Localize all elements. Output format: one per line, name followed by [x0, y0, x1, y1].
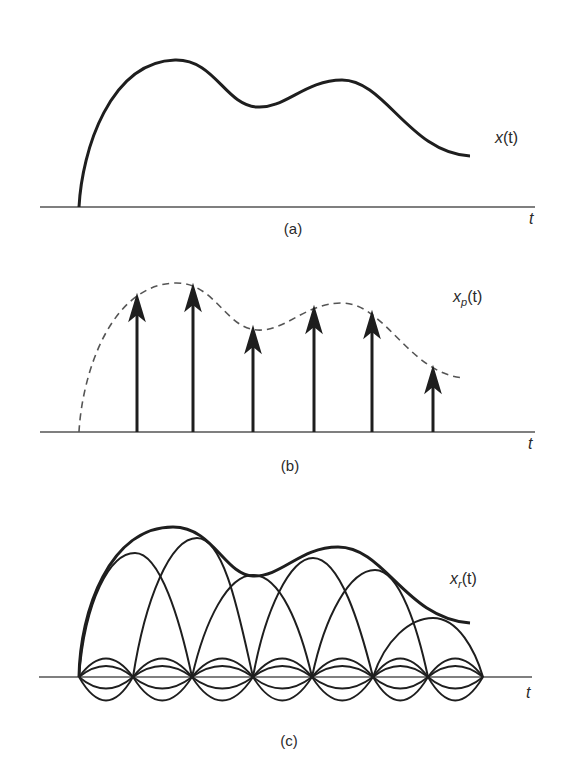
axis-label-t-a: t	[529, 210, 534, 227]
caption-b: (b)	[281, 457, 299, 474]
panel-a: x(t) t (a)	[40, 60, 535, 237]
sinc-main-lobes	[79, 538, 483, 677]
impulse-4	[308, 310, 320, 432]
signal-label-a: x(t)	[494, 129, 518, 146]
caption-a: (a)	[284, 220, 302, 237]
signal-label-b: xp(t)	[452, 288, 482, 308]
panel-c: xr(t) t (c)	[39, 527, 532, 749]
signal-curve-x	[79, 60, 470, 207]
impulse-2	[187, 288, 199, 432]
sinc-side-lobes	[79, 659, 483, 701]
panel-b: xp(t) t (b)	[40, 283, 535, 474]
sampling-reconstruction-figure: x(t) t (a)	[0, 0, 565, 778]
axis-label-t-b: t	[528, 435, 533, 452]
sinc-lobe-4	[253, 558, 373, 677]
axis-label-t-c: t	[526, 684, 531, 701]
impulse-6	[427, 370, 439, 432]
impulse-5	[366, 315, 378, 432]
caption-c: (c)	[280, 732, 298, 749]
sinc-lobe-2	[133, 538, 253, 677]
impulse-1	[131, 298, 143, 432]
impulse-3	[247, 330, 259, 432]
impulse-train	[131, 288, 439, 432]
signal-label-c: xr(t)	[449, 570, 477, 590]
